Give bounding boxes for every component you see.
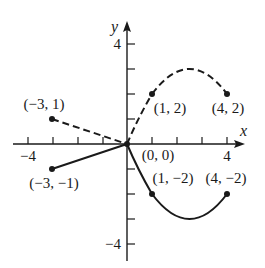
x-tick-label-neg4: −4: [20, 148, 36, 164]
y-tick-label-neg4: −4: [105, 236, 121, 252]
point-label-1-2: (1, 2): [154, 100, 187, 117]
point-label-neg3-neg1: (−3, −1): [29, 175, 78, 192]
point-label-4-neg2: (4, −2): [206, 170, 247, 187]
point-neg3-neg1: [49, 166, 55, 172]
point-origin: [124, 141, 130, 147]
point-4-2: [224, 91, 230, 97]
point-label-origin: (0, 0): [142, 147, 175, 164]
solid-arc: [152, 194, 227, 219]
y-axis-label: y: [109, 18, 119, 36]
dashed-graph: [52, 69, 227, 144]
point-label-4-2: (4, 2): [212, 100, 245, 117]
point-4-neg2: [224, 191, 230, 197]
y-tick-label-4: 4: [114, 36, 122, 52]
x-tick-label-4: 4: [223, 148, 231, 164]
x-axis-label: x: [239, 122, 247, 139]
solid-segment: [52, 144, 127, 169]
point-label-neg3-1: (−3, 1): [24, 96, 65, 113]
dashed-arc: [152, 69, 227, 94]
point-label-1-neg2: (1, −2): [153, 170, 194, 187]
dashed-segment: [52, 119, 127, 144]
coordinate-plane-figure: −4 4 4 −4 x y (−3, 1) (1, 2) (4, 2) (0, …: [0, 0, 265, 268]
point-neg3-1: [49, 116, 55, 122]
point-1-neg2: [149, 191, 155, 197]
point-1-2: [149, 91, 155, 97]
